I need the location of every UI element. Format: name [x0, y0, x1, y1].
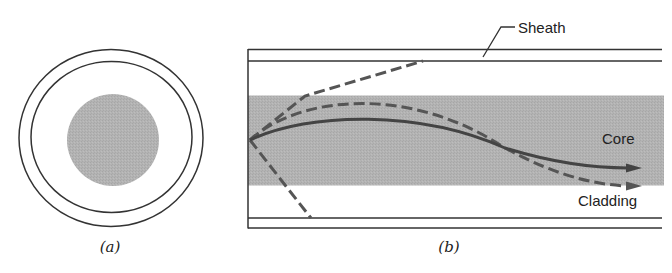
panel-a-cross-section: (a): [19, 50, 203, 257]
label-core: Core: [602, 130, 635, 147]
sheath-pointer-line: [483, 27, 515, 57]
core-disk: [67, 94, 159, 186]
label-sheath: Sheath: [518, 19, 566, 36]
caption-b: (b): [438, 238, 459, 256]
caption-a: (a): [100, 238, 121, 256]
panel-b-longitudinal: Sheath Core Cladding (b): [248, 19, 664, 256]
label-cladding: Cladding: [578, 192, 637, 209]
fiber-diagram: (a) Sheath Core Cladding (b): [0, 0, 672, 273]
